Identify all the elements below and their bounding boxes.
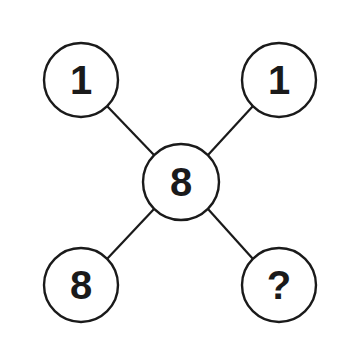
node-bottom-right: ? bbox=[242, 248, 316, 322]
node-label: 1 bbox=[70, 58, 92, 102]
node-center: 8 bbox=[143, 144, 219, 220]
edge-top-left bbox=[107, 106, 154, 155]
edge-bottom-right bbox=[208, 209, 253, 259]
node-top-left: 1 bbox=[44, 43, 118, 117]
node-label: 1 bbox=[268, 58, 290, 102]
edge-bottom-left bbox=[107, 209, 154, 259]
node-label: 8 bbox=[170, 160, 192, 204]
edge-top-right bbox=[208, 106, 253, 155]
node-top-right: 1 bbox=[242, 43, 316, 117]
puzzle-diagram: 1 1 8 8 ? bbox=[0, 0, 338, 355]
node-label: 8 bbox=[70, 263, 92, 307]
question-mark-label: ? bbox=[267, 263, 291, 307]
node-bottom-left: 8 bbox=[44, 248, 118, 322]
